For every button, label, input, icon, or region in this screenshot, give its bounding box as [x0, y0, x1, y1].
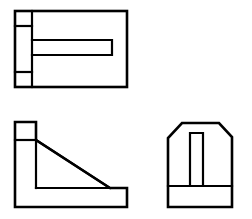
top-view-center-slot — [32, 40, 112, 55]
side-view — [168, 123, 232, 207]
engineering-drawing-sheet — [0, 0, 252, 219]
drawing-canvas — [0, 0, 252, 219]
side-view-center-slot — [190, 133, 203, 186]
front-view-diagonal-gusset — [36, 140, 110, 188]
front-view-outline — [15, 122, 127, 207]
top-view — [15, 11, 127, 87]
side-view-outline — [168, 123, 232, 207]
front-view — [15, 122, 127, 207]
